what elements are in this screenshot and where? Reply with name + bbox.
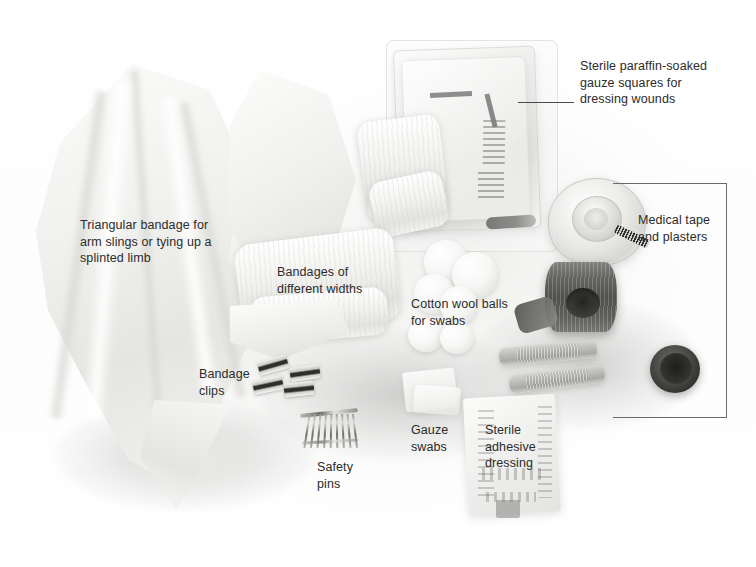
label-safety-pins: Safety pins	[317, 459, 353, 492]
label-triangular-bandage: Triangular bandage for arm slings or tyi…	[80, 217, 212, 267]
label-medical-tape-and-plasters: Medical tape and plasters	[638, 212, 710, 245]
first-aid-kit-figure: Sterile paraffin-soaked gauze squares fo…	[0, 0, 756, 567]
label-sterile-adhesive-dressing: Sterile adhesive dressing	[485, 422, 536, 472]
label-bandages-of-different-widths: Bandages of different widths	[277, 264, 362, 297]
leader-line-paraffin-gauze	[518, 102, 574, 103]
label-gauze-swabs: Gauze swabs	[411, 422, 448, 455]
bracket-right-line	[726, 183, 727, 418]
label-bandage-clips: Bandage clips	[199, 366, 250, 399]
bracket-bottom-line	[613, 417, 726, 418]
label-sterile-paraffin-gauze: Sterile paraffin-soaked gauze squares fo…	[580, 58, 707, 108]
bracket-top-line	[613, 183, 726, 184]
label-cotton-wool-balls: Cotton wool balls for swabs	[411, 296, 508, 329]
